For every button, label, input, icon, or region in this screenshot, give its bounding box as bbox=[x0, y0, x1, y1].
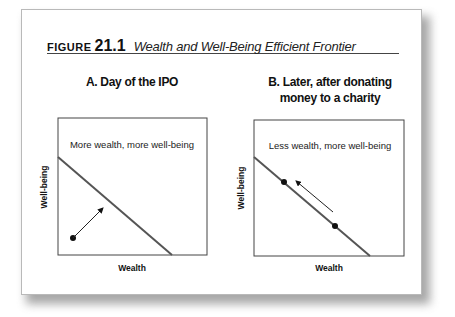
panel-b-point-before bbox=[332, 223, 338, 229]
panel-b-frontier-line bbox=[254, 157, 370, 256]
panel-a-frontier-line bbox=[58, 157, 172, 255]
panel-b-y-axis-label: Well-being bbox=[236, 167, 246, 210]
panel-a-x-axis-label: Wealth bbox=[118, 263, 146, 273]
panel-b-x-axis-label: Wealth bbox=[315, 263, 343, 273]
panel-a-plot: More wealth, more well-being Wealth Well… bbox=[39, 118, 207, 273]
panel-a-region-label: More wealth, more well-being bbox=[70, 139, 194, 150]
panel-b-point-after bbox=[281, 179, 287, 185]
panel-b-region-label: Less wealth, more well-being bbox=[269, 140, 392, 151]
panel-a-arrow-icon bbox=[73, 208, 103, 238]
panel-a-y-axis-label: Well-being bbox=[39, 166, 49, 209]
diagram-canvas: More wealth, more well-being Wealth Well… bbox=[0, 0, 455, 317]
panel-b-plot: Less wealth, more well-being Wealth Well… bbox=[236, 120, 404, 273]
